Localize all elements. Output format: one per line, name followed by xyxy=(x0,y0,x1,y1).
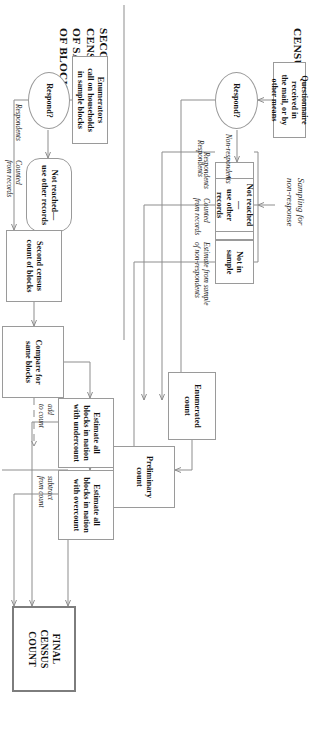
node-respond-second[interactable]: Respond? xyxy=(28,72,70,129)
edge-label-counted-from-records-second: Counted from records xyxy=(5,160,23,197)
diagram-canvas: CENSUS SECOND CENSUS OF SAMPLE OF BLOCKS… xyxy=(0,0,320,732)
edge-label-respondents-second: Respondents xyxy=(13,104,22,141)
node-enumerated-count[interactable]: Enumerated count xyxy=(168,372,216,440)
node-preliminary-count[interactable]: Preliminary count xyxy=(113,446,175,508)
edge-label-estimate-from-sample: Estimate from sample of non-respondents xyxy=(193,242,211,305)
node-final-census-count: FINAL CENSUS COUNT xyxy=(12,606,76,692)
node-second-census-count-of-blocks[interactable]: Second census count of blocks xyxy=(6,230,62,302)
edge-label-non-respondents: Non-respondents xyxy=(223,134,232,184)
node-questionnaire[interactable]: Questionnaire received in the mail, or b… xyxy=(273,62,306,138)
node-compare-for-same-blocks[interactable]: Compare for same blocks xyxy=(2,326,64,398)
node-not-reached-use-other-records[interactable]: Not reached— use other records xyxy=(215,178,254,232)
node-enumerators-call-on-households[interactable]: Enumerators call on households in sample… xyxy=(72,56,108,144)
node-not-in-sample[interactable]: Not in sample xyxy=(215,240,254,284)
edge-label-add-to-count: add to count xyxy=(37,404,55,428)
node-respond-main[interactable]: Respond? xyxy=(215,72,258,129)
edge-label-counted-from-records: Counted from records xyxy=(193,198,211,235)
node-estimate-undercount[interactable]: Estimate all blocks in nation with under… xyxy=(58,398,114,468)
flowchart-rotated-layer: CENSUS SECOND CENSUS OF SAMPLE OF BLOCKS… xyxy=(0,0,320,732)
node-not-reached-second[interactable]: Not reached— use other records xyxy=(26,158,72,232)
edge-label-subtract-from-count: subtract from count xyxy=(37,476,55,508)
edge-label-sampling-for-non-response: Sampling for non-response xyxy=(284,178,306,227)
node-estimate-overcount[interactable]: Estimate all blocks in nation with overc… xyxy=(58,470,114,540)
edge-label-respondents-sample: Respondents xyxy=(201,152,210,189)
